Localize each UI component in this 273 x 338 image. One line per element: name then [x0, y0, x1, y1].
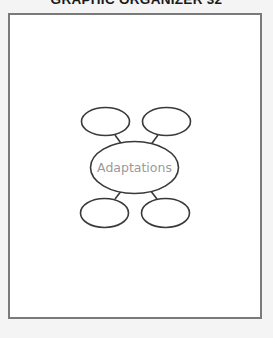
- branch-ellipse-bottom-right[interactable]: [142, 199, 190, 228]
- branch-ellipse-top-right[interactable]: [143, 108, 191, 136]
- center-label: Adaptations: [97, 160, 172, 175]
- web-diagram: Adaptations: [0, 0, 273, 338]
- branch-ellipse-bottom-left[interactable]: [81, 199, 129, 228]
- branch-ellipse-top-left[interactable]: [82, 108, 130, 136]
